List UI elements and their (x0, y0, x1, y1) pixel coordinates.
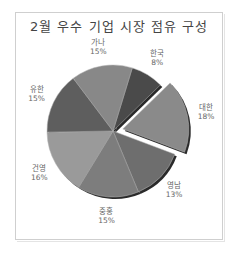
data-label-category: 대한 (198, 103, 215, 112)
data-label[interactable]: 가나15% (90, 38, 107, 56)
data-label[interactable]: 대한18% (198, 103, 215, 121)
pie-chart[interactable] (0, 0, 238, 253)
data-label[interactable]: 중홍15% (98, 207, 115, 225)
data-label-value: 16% (31, 173, 48, 182)
data-label-category: 한국 (150, 49, 164, 58)
data-label[interactable]: 한국8% (150, 49, 164, 67)
data-label-category: 영남 (166, 181, 183, 190)
data-label-value: 15% (28, 94, 45, 103)
data-label[interactable]: 유한15% (28, 85, 45, 103)
data-label-value: 15% (98, 216, 115, 225)
data-label-category: 건영 (31, 164, 48, 173)
data-label-value: 15% (90, 47, 107, 56)
data-label-value: 18% (198, 112, 215, 121)
data-label[interactable]: 영남13% (166, 181, 183, 199)
data-label[interactable]: 건영16% (31, 164, 48, 182)
data-label-category: 가나 (90, 38, 107, 47)
data-label-value: 13% (166, 190, 183, 199)
data-label-category: 유한 (28, 85, 45, 94)
data-label-category: 중홍 (98, 207, 115, 216)
data-label-value: 8% (150, 58, 164, 67)
